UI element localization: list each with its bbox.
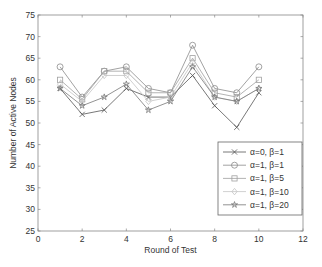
legend-label: α=1, β=1 [250, 160, 284, 170]
legend-label: α=1, β=20 [250, 200, 289, 210]
y-tick-label: 55 [26, 96, 36, 106]
series-line [57, 64, 262, 113]
y-tick-label: 40 [26, 161, 36, 171]
x-tick-label: 6 [168, 234, 173, 244]
series-line [57, 42, 262, 100]
legend: α=0, β=1α=1, β=1α=1, β=5α=1, β=10α=1, β=… [218, 142, 302, 215]
y-tick-label: 45 [26, 140, 36, 150]
x-axis-label: Round of Test [144, 245, 197, 255]
legend-label: α=0, β=1 [250, 147, 284, 157]
y-tick-label: 60 [26, 75, 36, 85]
y-tick-label: 35 [26, 183, 36, 193]
legend-label: α=1, β=10 [250, 187, 289, 197]
x-tick-label: 2 [80, 234, 85, 244]
y-tick-label: 50 [26, 118, 36, 128]
series-line [57, 59, 261, 104]
x-tick-label: 4 [124, 234, 129, 244]
x-tick-label: 10 [254, 234, 264, 244]
circle-marker-icon [256, 64, 262, 70]
y-axis-label: Number of Active Nodes [8, 77, 18, 169]
x-marker-icon [190, 73, 195, 78]
y-tick-label: 75 [26, 10, 36, 20]
series-line [57, 73, 261, 130]
legend-label: α=1, β=5 [250, 173, 284, 183]
y-tick-label: 30 [26, 204, 36, 214]
x-tick-label: 8 [212, 234, 217, 244]
line-chart: 0246810122530354045505560657075 α=0, β=1… [0, 0, 322, 267]
x-marker-icon [234, 125, 239, 130]
y-tick-label: 65 [26, 53, 36, 63]
x-tick-label: 12 [298, 234, 308, 244]
x-tick-label: 0 [36, 234, 41, 244]
y-tick-label: 70 [26, 32, 36, 42]
x-marker-icon [212, 103, 217, 108]
y-tick-label: 25 [26, 226, 36, 236]
series-layer [57, 42, 262, 130]
